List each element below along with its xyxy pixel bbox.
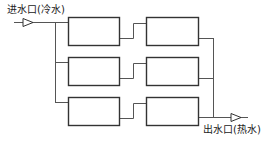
inlet-label: 进水口(冷水) xyxy=(7,4,65,16)
unit-row-2-left xyxy=(69,58,120,86)
series-connector-row-1 xyxy=(120,24,146,39)
series-connector-row-2 xyxy=(120,64,146,79)
unit-row-3-right xyxy=(147,98,199,126)
series-connector-row-3 xyxy=(120,104,146,119)
unit-row-1-right xyxy=(147,18,199,46)
water-heater-parallel-series-diagram xyxy=(0,0,268,143)
unit-row-2-right xyxy=(147,58,199,86)
outlet-arrow-icon xyxy=(231,114,241,122)
outlet-label: 出水口(热水) xyxy=(203,124,261,136)
unit-row-3-left xyxy=(69,98,120,126)
inlet-arrow-icon xyxy=(23,19,33,27)
unit-row-1-left xyxy=(69,18,120,46)
